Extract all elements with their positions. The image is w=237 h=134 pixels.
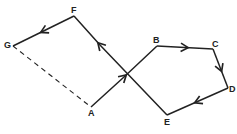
point-label-g: G: [4, 40, 11, 50]
point-label-a: A: [88, 108, 95, 118]
point-label-f: F: [71, 5, 77, 15]
edge-a-b: [91, 46, 157, 107]
edge-g-a-dashed: [13, 46, 91, 107]
point-label-c: C: [212, 39, 219, 49]
polygon-path-diagram: [0, 0, 237, 134]
point-label-d: D: [229, 84, 236, 94]
edge-e-f: [74, 16, 167, 115]
edge-c-d: [213, 49, 228, 88]
edge-d-e: [167, 88, 228, 115]
edge-f-g: [13, 16, 74, 46]
edge-b-c: [157, 46, 213, 49]
point-label-b: B: [153, 35, 160, 45]
point-label-e: E: [164, 117, 170, 127]
